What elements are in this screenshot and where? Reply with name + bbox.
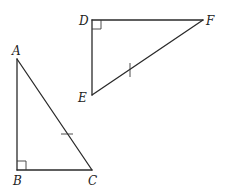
geometry-diagram: A B C D F E <box>0 0 225 189</box>
label-d: D <box>78 14 89 28</box>
side-ef <box>92 20 203 95</box>
label-a: A <box>11 44 21 58</box>
label-e: E <box>77 91 87 105</box>
triangle-def: D F E <box>77 14 215 105</box>
triangle-abc: A B C <box>11 44 97 188</box>
label-b: B <box>12 174 22 188</box>
right-angle-marker-b <box>17 161 26 170</box>
side-ac <box>17 59 92 170</box>
right-angle-marker-d <box>92 20 101 29</box>
label-c: C <box>88 174 97 188</box>
label-f: F <box>205 14 215 28</box>
